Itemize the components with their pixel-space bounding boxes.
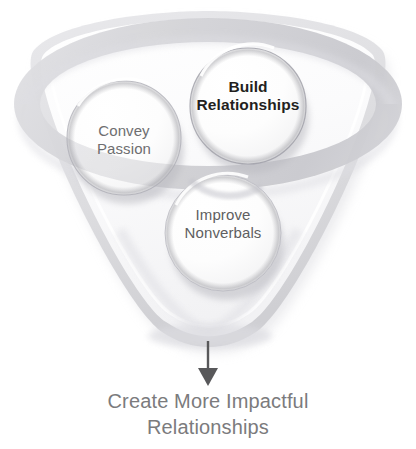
node-improve-nonverbals[interactable] bbox=[165, 173, 281, 291]
diagram-canvas: Build Relationships Convey Passion Impro… bbox=[0, 0, 416, 449]
diagram-artwork bbox=[0, 0, 416, 449]
diagram-caption: Create More Impactful Relationships bbox=[0, 389, 416, 440]
